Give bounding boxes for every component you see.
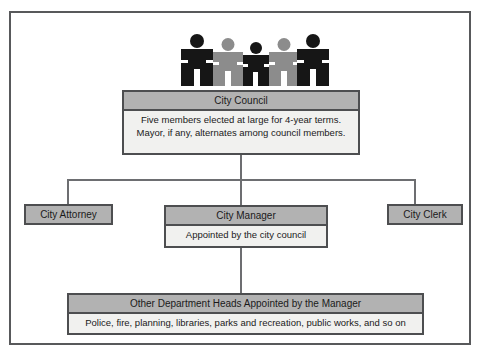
- person-head-icon: [190, 34, 204, 48]
- node-city-council-header: City Council: [124, 92, 358, 111]
- node-other-department-heads-line-1: Police, fire, planning, libraries, parks…: [73, 317, 418, 330]
- node-other-department-heads-body: Police, fire, planning, libraries, parks…: [69, 314, 422, 333]
- person-figure-5: [297, 34, 329, 86]
- person-leg-gap: [225, 71, 231, 86]
- person-figure-1: [181, 34, 213, 86]
- person-arm-gap-left: [269, 62, 275, 65]
- node-city-clerk-header: City Clerk: [389, 206, 461, 223]
- node-city-manager-body: Appointed by the city council: [166, 226, 326, 245]
- person-leg-gap: [281, 71, 287, 86]
- diagram-frame: City Council Five members elected at lar…: [9, 11, 471, 345]
- node-city-council-line-1: Five members elected at large for 4-year…: [128, 114, 354, 127]
- node-city-attorney-header: City Attorney: [26, 206, 111, 223]
- connector-bus-to-attorney: [67, 179, 69, 204]
- connector-bus-to-clerk: [414, 179, 416, 204]
- node-other-department-heads[interactable]: Other Department Heads Appointed by the …: [67, 293, 424, 335]
- node-city-manager-header: City Manager: [166, 207, 326, 226]
- person-head-icon: [250, 42, 262, 54]
- person-head-icon: [278, 38, 291, 51]
- person-arm-gap-right: [206, 60, 213, 63]
- person-figure-3: [243, 42, 269, 86]
- connector-manager-to-departments: [240, 248, 242, 293]
- node-other-department-heads-header: Other Department Heads Appointed by the …: [69, 295, 422, 314]
- person-leg-gap: [310, 69, 316, 86]
- connector-bus-to-manager: [240, 179, 242, 205]
- person-figure-4: [269, 38, 299, 86]
- node-city-manager[interactable]: City Manager Appointed by the city counc…: [164, 205, 328, 248]
- person-head-icon: [222, 38, 235, 51]
- node-city-manager-line-1: Appointed by the city council: [170, 229, 322, 242]
- node-city-clerk[interactable]: City Clerk: [387, 204, 463, 225]
- person-arm-gap-left: [181, 60, 188, 63]
- person-figure-2: [213, 38, 243, 86]
- person-leg-gap: [194, 69, 200, 86]
- person-arm-gap-left: [297, 60, 304, 63]
- person-arm-gap-left: [213, 62, 219, 65]
- person-arm-gap-left: [243, 64, 248, 67]
- node-city-council[interactable]: City Council Five members elected at lar…: [122, 90, 360, 155]
- person-head-icon: [306, 34, 320, 48]
- node-city-council-body: Five members elected at large for 4-year…: [124, 111, 358, 142]
- person-leg-gap: [253, 72, 258, 86]
- node-city-council-line-2: Mayor, if any, alternates among council …: [128, 127, 354, 140]
- connector-council-to-bus: [240, 155, 242, 179]
- person-arm-gap-right: [322, 60, 329, 63]
- diagram-canvas: City Council Five members elected at lar…: [0, 0, 482, 363]
- council-members-figures: [181, 34, 327, 86]
- node-city-attorney[interactable]: City Attorney: [24, 204, 113, 225]
